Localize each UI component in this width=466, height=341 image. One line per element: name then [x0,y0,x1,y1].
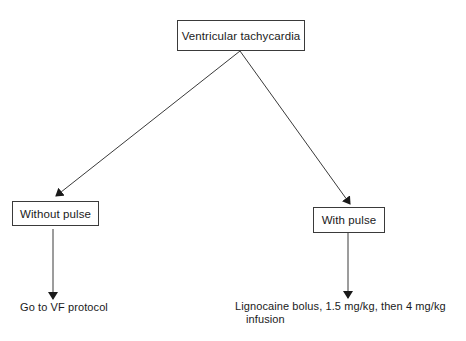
node-label: Without pulse [20,208,91,220]
node-label: Ventricular tachycardia [182,30,301,42]
outcome-lignocaine-bolus: Lignocaine bolus, 1.5 mg/kg, then 4 mg/k… [235,300,446,326]
edge-vt-to-with-pulse [240,51,350,204]
outcome-line-continued: infusion [235,313,446,326]
outcome-line: Lignocaine bolus, 1.5 mg/kg, then 4 mg/k… [235,300,446,313]
outcome-line: Go to VF protocol [20,301,108,314]
node-with-pulse: With pulse [313,207,385,233]
outcome-go-to-vf-protocol: Go to VF protocol [20,301,108,314]
node-without-pulse: Without pulse [12,201,99,226]
node-label: With pulse [322,214,377,226]
connectors [0,0,466,341]
edge-vt-to-without-pulse [56,51,240,196]
node-ventricular-tachycardia: Ventricular tachycardia [177,20,305,51]
